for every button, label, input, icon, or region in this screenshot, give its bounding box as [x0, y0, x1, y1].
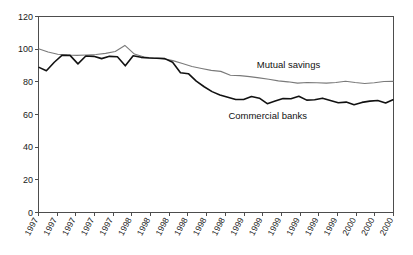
x-axis-tick-label: 1997	[41, 216, 59, 238]
x-axis-tick-label: 1999	[265, 216, 283, 238]
chart-container: 020406080100120 199719971997199719971998…	[0, 0, 413, 255]
y-axis-tick-label: 120	[18, 12, 33, 22]
series-annotation-mutual-savings: Mutual savings	[257, 59, 321, 70]
y-axis-tick-label: 40	[23, 142, 33, 152]
x-axis-tick-label: 1999	[228, 216, 246, 238]
line-chart: 020406080100120 199719971997199719971998…	[0, 0, 413, 255]
x-axis-tick-label: 1998	[172, 216, 190, 238]
y-axis-tick-labels: 020406080100120	[18, 12, 33, 218]
x-axis-tick-label: 1998	[209, 216, 227, 238]
y-axis-tick-marks	[35, 17, 39, 213]
x-axis-tick-label: 1997	[79, 216, 97, 238]
x-axis-tick-label: 2000	[359, 216, 377, 238]
x-axis-tick-label: 1997	[60, 216, 78, 238]
x-axis-tick-label: 1999	[284, 216, 302, 238]
x-axis-tick-label: 1998	[191, 216, 209, 238]
series-annotation-commercial-banks: Commercial banks	[228, 110, 307, 121]
y-axis-tick-label: 100	[18, 44, 33, 54]
x-axis-tick-label: 1998	[116, 216, 134, 238]
plot-area-background	[38, 16, 394, 212]
x-axis-tick-label: 1997	[97, 216, 115, 238]
x-axis-tick-labels: 1997199719971997199719981998199819981998…	[23, 216, 396, 238]
x-axis-tick-label: 1999	[303, 216, 321, 238]
x-axis-tick-label: 2000	[378, 216, 396, 238]
y-axis-tick-label: 60	[23, 110, 33, 120]
x-axis-tick-label: 1998	[153, 216, 171, 238]
x-axis-tick-label: 2000	[340, 216, 358, 238]
x-axis-tick-label: 1997	[23, 216, 41, 238]
y-axis-tick-label: 20	[23, 175, 33, 185]
x-axis-tick-label: 1998	[135, 216, 153, 238]
x-axis-tick-label: 1999	[322, 216, 340, 238]
y-axis-tick-label: 80	[23, 77, 33, 87]
x-axis-tick-label: 1999	[247, 216, 265, 238]
